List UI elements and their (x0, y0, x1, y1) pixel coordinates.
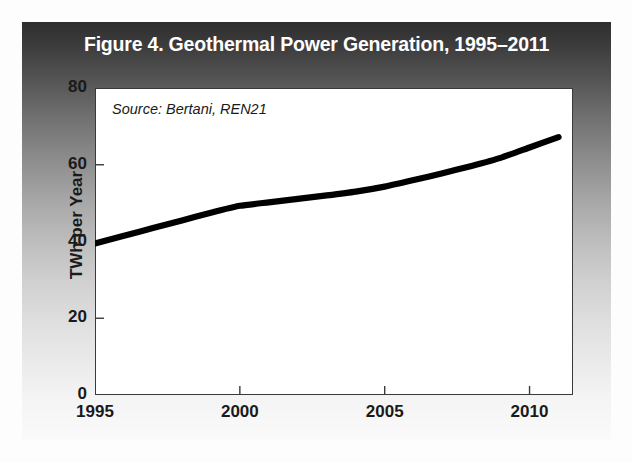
y-axis-ticks (95, 88, 104, 318)
figure-container: Figure 4. Geothermal Power Generation, 1… (0, 0, 632, 462)
data-series-line (95, 137, 559, 243)
y-tick-label: 0 (45, 384, 87, 404)
x-tick-label: 1995 (60, 402, 130, 422)
y-tick-label: 80 (45, 77, 87, 97)
x-tick-label: 2000 (205, 402, 275, 422)
y-tick-label: 20 (45, 307, 87, 327)
chart-plot-area (95, 88, 573, 395)
x-tick-label: 2005 (350, 402, 420, 422)
x-tick-label: 2010 (495, 402, 565, 422)
source-annotation: Source: Bertani, REN21 (112, 101, 267, 117)
y-tick-label: 40 (45, 231, 87, 251)
page-title: Figure 4. Geothermal Power Generation, 1… (22, 33, 611, 56)
x-axis-ticks (240, 386, 530, 395)
y-tick-label: 60 (45, 154, 87, 174)
